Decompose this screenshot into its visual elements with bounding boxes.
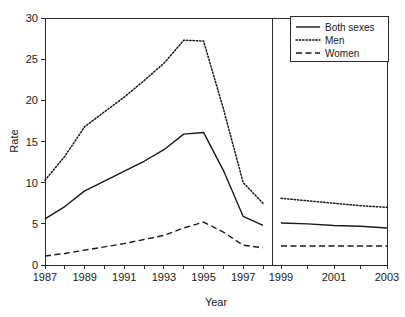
legend-label: Both sexes <box>325 22 374 33</box>
chart-legend: Both sexesMenWomen <box>290 16 388 61</box>
chart-canvas: 051015202530 198719891991199319951997199… <box>0 0 405 317</box>
x-tick-label: 2001 <box>322 271 346 283</box>
series-line-left <box>45 40 263 203</box>
y-tick-label: 15 <box>26 136 38 148</box>
line-chart-figure: 051015202530 198719891991199319951997199… <box>0 0 405 317</box>
y-tick-label: 30 <box>26 12 38 24</box>
x-tick-label: 1997 <box>231 271 255 283</box>
x-tick-label: 1989 <box>72 271 96 283</box>
series-women <box>45 222 387 256</box>
data-series-group <box>45 40 387 256</box>
series-line-left <box>45 222 263 256</box>
series-line-left <box>45 132 263 225</box>
x-axis-title: Year <box>205 296 228 308</box>
y-tick-label: 25 <box>26 53 38 65</box>
legend-label: Men <box>325 35 344 46</box>
y-tick-label: 10 <box>26 177 38 189</box>
x-tick-label: 1995 <box>191 271 215 283</box>
y-tick-label: 0 <box>32 259 38 271</box>
x-tick-label: 1993 <box>152 271 176 283</box>
series-line-right <box>281 198 387 207</box>
series-line-right <box>281 223 387 228</box>
y-axis-ticks: 051015202530 <box>26 12 45 271</box>
x-axis-ticks: 198719891991199319951997199920012003 <box>33 265 399 283</box>
y-tick-label: 20 <box>26 94 38 106</box>
x-tick-label: 1999 <box>269 271 293 283</box>
series-both-sexes <box>45 132 387 228</box>
y-axis-title: Rate <box>8 129 20 152</box>
legend-label: Women <box>325 48 359 59</box>
series-men <box>45 40 387 207</box>
x-tick-label: 1987 <box>33 271 57 283</box>
y-tick-label: 5 <box>32 218 38 230</box>
x-tick-label: 1991 <box>112 271 136 283</box>
x-tick-label: 2003 <box>375 271 399 283</box>
